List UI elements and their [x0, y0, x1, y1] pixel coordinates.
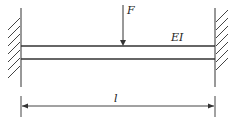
- left-hatching: [8, 18, 20, 78]
- point-load-arrow-icon: [120, 5, 126, 46]
- beam-diagram: F EI l: [0, 0, 233, 126]
- left-arrowhead-icon: [22, 104, 28, 109]
- length-label: l: [114, 92, 118, 105]
- right-fixed-support: [215, 8, 228, 87]
- beam: [21, 46, 215, 59]
- right-hatching: [216, 10, 228, 70]
- stiffness-label: EI: [170, 31, 184, 44]
- left-fixed-support: [8, 8, 21, 87]
- length-dimension: [21, 96, 215, 117]
- right-arrowhead-icon: [208, 104, 214, 109]
- force-label: F: [126, 4, 135, 17]
